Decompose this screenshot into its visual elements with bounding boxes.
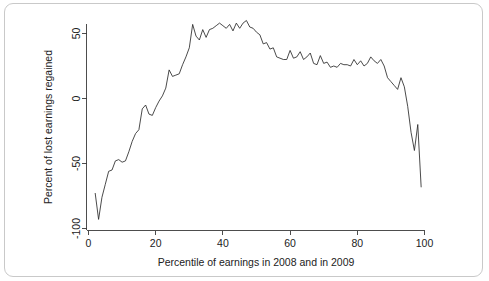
y-tick-label-neg50: -50: [70, 156, 82, 171]
x-tick-label-40: 40: [217, 237, 229, 249]
figure-container: 50 0 -50 -100 0 20 40 60 80 100 Percenti…: [0, 0, 489, 281]
x-tick-label-60: 60: [284, 237, 296, 249]
y-tick-label-0: 0: [70, 95, 82, 101]
y-axis-ticks: [82, 34, 87, 229]
y-tick-label-neg100: -100: [70, 218, 82, 239]
x-tick-labels: 0 20 40 60 80 100: [86, 237, 434, 249]
y-tick-label-50: 50: [70, 28, 82, 40]
y-axis-title: Percent of lost earnings regained: [42, 50, 54, 204]
y-tick-labels: 50 0 -50 -100: [70, 28, 82, 240]
line-chart: 50 0 -50 -100 0 20 40 60 80 100 Percenti…: [0, 0, 489, 281]
x-tick-label-100: 100: [416, 237, 434, 249]
x-axis-title: Percentile of earnings in 2008 and in 20…: [158, 256, 355, 268]
x-axis-ticks: [89, 231, 425, 236]
x-tick-label-0: 0: [86, 237, 92, 249]
x-tick-label-80: 80: [351, 237, 363, 249]
x-tick-label-20: 20: [150, 237, 162, 249]
data-series-line: [95, 21, 421, 220]
